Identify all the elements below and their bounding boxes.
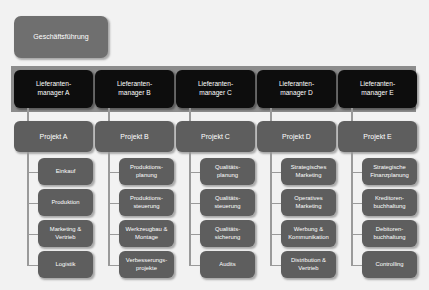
task-box[interactable]: Werkzeugbau &Montage [119,220,174,247]
task-label-line1: Einkauf [56,168,76,176]
task-box[interactable]: Marketing &Vertrieb [38,220,93,247]
connector-stub [270,234,281,236]
task-box[interactable]: Distribution &Vertrieb [281,251,336,278]
task-box[interactable]: Qualitäts-planung [200,158,255,185]
manager-label-line2: manager B [118,89,150,98]
connector-stub [189,265,200,267]
connector-spine [27,152,29,265]
task-label-line1: Controlling [375,261,403,269]
connector-spine [108,152,110,265]
task-box[interactable]: Audits [200,251,255,278]
task-label-line2: buchhaltung [373,234,405,242]
task-box[interactable]: StrategischesMarketing [281,158,336,185]
connector-manager-to-project [189,108,191,122]
task-box[interactable]: Qualitäts-steuerung [200,189,255,216]
task-label-line1: Werkzeugbau & [126,226,168,234]
task-label-line2: projekte [136,265,157,273]
task-label-line1: Qualitäts- [215,164,240,172]
connector-spine [189,152,191,265]
project-box[interactable]: Projekt D [257,121,336,152]
project-label: Projekt D [282,133,311,140]
project-label: Projekt B [120,133,148,140]
task-label-line1: Kreditoren- [375,195,404,203]
task-label-line2: steuerung [214,203,240,211]
task-label-line2: Kommunikation [288,234,329,242]
connector-stub [27,265,38,267]
task-box[interactable]: Produktions-planung [119,158,174,185]
task-label-line1: Marketing & [50,226,81,234]
task-box[interactable]: Einkauf [38,158,93,185]
task-label-line2: sicherung [215,234,241,242]
project-box[interactable]: Projekt C [176,121,255,152]
task-label-line1: Strategische [373,164,406,172]
task-label-line2: steuerung [133,203,159,211]
task-label-line2: buchhaltung [373,203,405,211]
manager-label-line2: manager C [199,89,232,98]
task-label-line1: Audits [219,261,235,269]
task-label-line1: Produktions- [130,195,163,203]
connector-stub [270,203,281,205]
project-box[interactable]: Projekt A [14,121,93,152]
connector-stub [351,203,362,205]
manager-box[interactable]: Lieferanten-manager E [338,70,417,108]
manager-label-line2: manager E [361,89,393,98]
manager-label-line1: Lieferanten- [117,80,152,89]
task-box[interactable]: Kreditoren-buchhaltung [362,189,417,216]
connector-stub [189,203,200,205]
task-label-line2: Finanzplanung [370,172,409,180]
manager-box[interactable]: Lieferanten-manager A [14,70,93,108]
connector-stub [351,172,362,174]
connector-stub [270,172,281,174]
task-label-line2: Marketing [296,203,322,211]
connector-stub [351,265,362,267]
task-label-line1: Strategisches [291,164,327,172]
task-label-line1: Operatives [294,195,322,203]
task-label-line1: Qualitäts- [215,195,240,203]
task-box[interactable]: Produktions-steuerung [119,189,174,216]
connector-stub [108,234,119,236]
manager-label-line1: Lieferanten- [198,80,233,89]
task-box[interactable]: StrategischeFinanzplanung [362,158,417,185]
executive-box[interactable]: Geschäftsführung [14,16,108,58]
task-label-line1: Logistik [56,261,76,269]
connector-stub [108,265,119,267]
task-label-line2: planung [136,172,157,180]
task-label-line1: Debitoren- [376,226,404,234]
project-label: Projekt A [39,133,67,140]
connector-stub [108,203,119,205]
manager-label-line1: Lieferanten- [360,80,395,89]
task-label-line1: Produktion [51,199,79,207]
project-box[interactable]: Projekt E [338,121,417,152]
connector-manager-to-project [351,108,353,122]
task-label-line1: Verbesserungs- [126,257,167,265]
task-box[interactable]: OperativesMarketing [281,189,336,216]
task-label-line1: Werbung & [294,226,323,234]
manager-box[interactable]: Lieferanten-manager B [95,70,174,108]
manager-box[interactable]: Lieferanten-manager D [257,70,336,108]
connector-stub [27,172,38,174]
task-label-line2: Vertrieb [298,265,318,273]
connector-spine [351,152,353,265]
manager-label-line2: manager A [38,89,70,98]
task-box[interactable]: Debitoren-buchhaltung [362,220,417,247]
manager-box[interactable]: Lieferanten-manager C [176,70,255,108]
task-label-line2: Vertrieb [55,234,75,242]
connector-stub [27,203,38,205]
task-box[interactable]: Produktion [38,189,93,216]
connector-spine [270,152,272,265]
task-box[interactable]: Controlling [362,251,417,278]
manager-label-line2: manager D [280,89,313,98]
connector-manager-to-project [270,108,272,122]
project-box[interactable]: Projekt B [95,121,174,152]
task-label-line2: Marketing [296,172,322,180]
manager-label-line1: Lieferanten- [36,80,71,89]
task-box[interactable]: Werbung &Kommunikation [281,220,336,247]
task-label-line1: Distribution & [291,257,326,265]
task-box[interactable]: Verbesserungs-projekte [119,251,174,278]
task-box[interactable]: Qualitäts-sicherung [200,220,255,247]
task-box[interactable]: Logistik [38,251,93,278]
manager-label-line1: Lieferanten- [279,80,314,89]
connector-stub [189,234,200,236]
task-label-line2: planung [217,172,238,180]
task-label-line1: Qualitäts- [215,226,240,234]
